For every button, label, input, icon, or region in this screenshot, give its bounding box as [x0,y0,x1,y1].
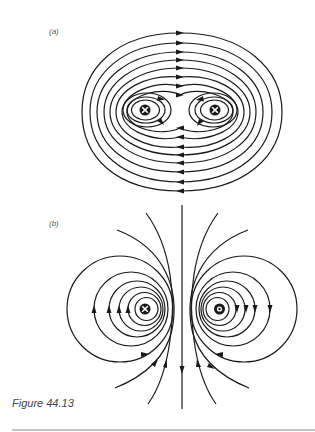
panel-a-arrows [176,31,184,194]
panel-b-left-circles [67,256,173,362]
panel-b: (b) [49,205,297,409]
panel-b-center-arrow [180,366,185,374]
figure-canvas: (a) [0,0,315,432]
figure-caption: Figure 44.13 [12,397,75,409]
panel-a: (a) [49,27,282,194]
conductor-b-right-dot-icon [214,304,225,315]
panel-b-label: (b) [49,219,59,228]
conductor-a-left-cross-icon [140,105,151,116]
panel-a-outer-field-lines [82,33,282,191]
conductor-b-left-cross-icon [140,304,151,315]
panel-b-right-circles [191,256,297,362]
panel-a-label: (a) [49,27,59,36]
conductor-a-right-cross-icon [210,105,221,116]
